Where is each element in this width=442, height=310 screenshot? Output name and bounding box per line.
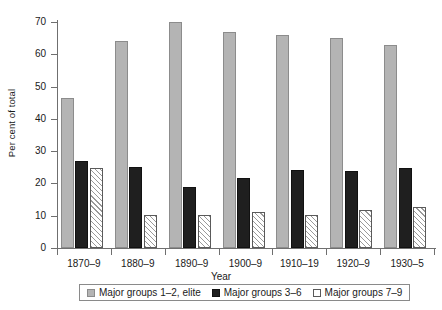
y-axis-tick-label: 20 [6,178,46,188]
legend-label: Major groups 1–2, elite [99,288,201,298]
chart-legend: Major groups 1–2, eliteMajor groups 3–6M… [79,284,410,301]
x-axis-tick [165,249,166,255]
y-axis-tick-label: 10 [6,211,46,221]
plot-area [57,22,434,248]
bar-6-series-3 [359,210,372,248]
bar-7-series-2 [399,168,412,248]
bar-5-series-3 [305,215,318,248]
legend-swatch-icon [87,289,95,297]
bar-4-series-3 [252,212,265,248]
bar-5-series-1 [276,35,289,248]
bar-6-series-1 [330,38,343,248]
x-axis-tick [434,249,435,255]
y-axis-tick-label: 30 [6,146,46,156]
legend-item-2: Major groups 3–6 [212,288,302,298]
x-axis-tick-label: 1930–5 [372,258,442,269]
legend-label: Major groups 3–6 [224,288,302,298]
chart-figure: Per cent of total 010203040506070 1870–9… [0,0,442,310]
y-axis-tick-label: 40 [6,114,46,124]
bar-4-series-2 [237,178,250,248]
bar-5-series-2 [291,170,304,248]
legend-item-3: Major groups 7–9 [313,288,403,298]
bar-1-series-3 [90,168,103,248]
bar-1-series-2 [75,161,88,248]
bar-2-series-1 [115,41,128,248]
legend-swatch-icon [313,289,321,297]
bar-7-series-3 [413,207,426,248]
legend-label: Major groups 7–9 [325,288,403,298]
bar-3-series-2 [183,187,196,248]
legend-item-1: Major groups 1–2, elite [87,288,201,298]
y-axis-tick-label: 70 [6,17,46,27]
bar-2-series-2 [129,167,142,248]
x-axis-tick [111,249,112,255]
x-axis-tick [57,249,58,255]
bar-1-series-1 [61,98,74,248]
x-axis-line [57,248,436,249]
bar-3-series-1 [169,22,182,248]
x-axis-tick [326,249,327,255]
bar-4-series-1 [223,32,236,248]
legend-swatch-icon [212,289,220,297]
bar-2-series-3 [144,215,157,248]
x-axis-tick [380,249,381,255]
x-axis-tick [219,249,220,255]
y-axis-tick-label: 0 [6,243,46,253]
y-axis-tick-label: 60 [6,49,46,59]
x-axis-title: Year [0,271,442,282]
y-axis-tick-label: 50 [6,82,46,92]
bar-7-series-1 [384,45,397,248]
bar-6-series-2 [345,171,358,248]
bar-3-series-3 [198,215,211,248]
x-axis-tick [272,249,273,255]
